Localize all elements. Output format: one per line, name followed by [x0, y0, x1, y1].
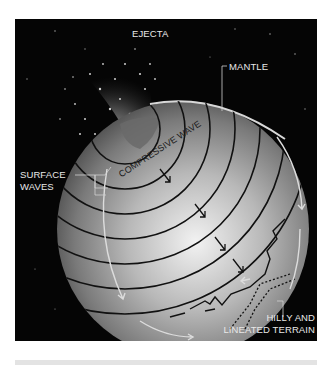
caption-bar [15, 360, 317, 365]
label-terrain-line1: HILLY AND [266, 312, 315, 323]
label-ejecta: EJECTA [132, 28, 168, 39]
label-surface-waves-line1: SURFACE [20, 169, 66, 180]
label-mantle: MANTLE [229, 61, 268, 72]
label-terrain-line2: LINEATED TERRAIN [223, 324, 315, 335]
impact-globe-illustration [15, 19, 317, 341]
label-surface-waves-line2: WAVES [20, 181, 54, 192]
diagram-panel: EJECTA MANTLE SURFACE WAVES COMPRESSIVE … [15, 19, 317, 341]
